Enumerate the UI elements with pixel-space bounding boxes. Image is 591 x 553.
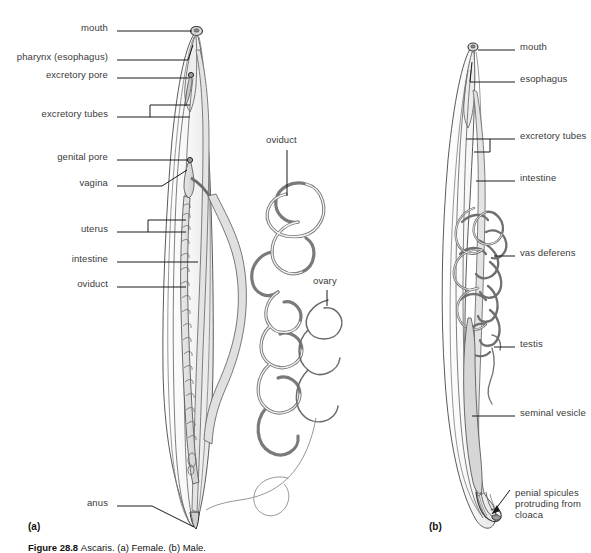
label-esophagus: esophagus	[520, 73, 567, 84]
label-pharynx-esophagus: pharynx (esophagus)	[17, 51, 108, 62]
label-anus: anus	[87, 497, 108, 508]
figure-caption-text: Ascaris. (a) Female. (b) Male.	[81, 542, 206, 553]
label-intestine-male: intestine	[520, 172, 556, 183]
panel-tag-b: (b)	[429, 521, 442, 532]
label-excretory-pore: excretory pore	[46, 69, 108, 80]
label-seminal-vesicle: seminal vesicle	[520, 407, 586, 418]
label-oviduct-right: oviduct	[266, 134, 297, 145]
label-genital-pore: genital pore	[57, 151, 108, 162]
label-oviduct-left: oviduct	[77, 278, 108, 289]
label-vagina: vagina	[79, 177, 108, 188]
label-penial-spicules: penial spicules protruding from cloaca	[515, 487, 591, 520]
label-vas-deferens: vas deferens	[520, 247, 576, 258]
female-oviduct-coils	[252, 183, 324, 455]
female-ovary	[296, 300, 341, 422]
label-uterus: uterus	[81, 223, 108, 234]
label-excretory-tubes-male: excretory tubes	[520, 130, 586, 141]
label-testis: testis	[520, 338, 543, 349]
label-excretory-tubes-female: excretory tubes	[42, 108, 108, 119]
label-mouth-female: mouth	[81, 22, 108, 33]
figure-caption-number: Figure 28.8	[28, 542, 78, 553]
label-intestine-female: intestine	[72, 253, 108, 264]
female-ovary-filament	[206, 418, 316, 516]
panel-tag-a: (a)	[28, 521, 40, 532]
label-mouth-male: mouth	[520, 41, 547, 52]
label-ovary: ovary	[313, 275, 337, 286]
female-leader-lines	[117, 31, 327, 527]
figure-caption: Figure 28.8 Ascaris. (a) Female. (b) Mal…	[28, 542, 206, 553]
